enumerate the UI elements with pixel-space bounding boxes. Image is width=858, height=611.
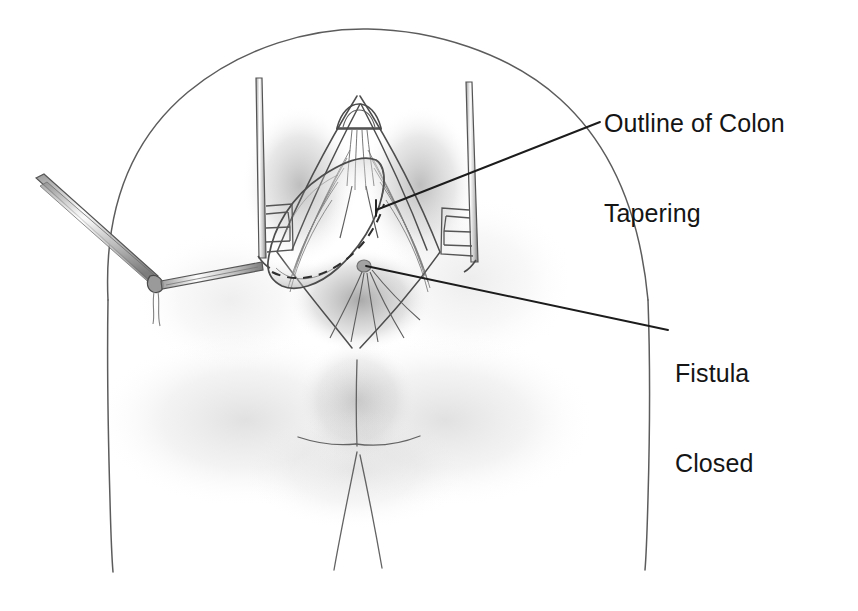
callout-line-1: Fistula xyxy=(675,358,753,388)
callout-label-fistula-closed: Fistula Closed xyxy=(675,298,753,538)
callout-line-2: Closed xyxy=(675,448,753,478)
callout-line-1: Outline of Colon xyxy=(604,108,785,138)
natal-cleft-line xyxy=(356,360,357,446)
lower-cleft-shading xyxy=(240,410,470,530)
surgical-illustration-figure: Outline of Colon Tapering Fistula Closed xyxy=(0,0,858,611)
forceps-lower-arm xyxy=(40,182,160,287)
callout-line-2: Tapering xyxy=(604,198,785,228)
callout-label-colon-tapering: Outline of Colon Tapering xyxy=(604,48,785,288)
right-flank-outline xyxy=(645,300,650,570)
